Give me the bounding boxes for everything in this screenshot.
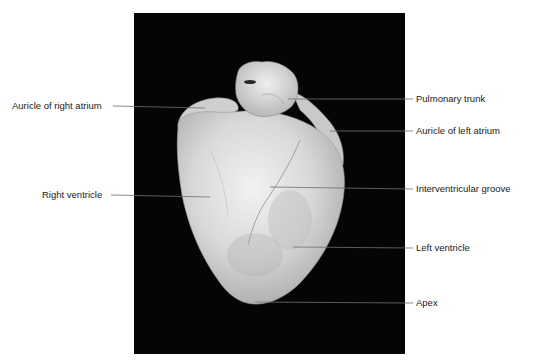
- label-auricle-left-atrium: Auricle of left atrium: [416, 125, 500, 137]
- leader-apex: [255, 302, 413, 303]
- label-auricle-right-atrium: Auricle of right atrium: [12, 100, 102, 112]
- label-right-ventricle: Right ventricle: [42, 189, 102, 201]
- label-apex: Apex: [416, 297, 438, 309]
- label-left-ventricle: Left ventricle: [416, 242, 470, 254]
- heart-illustration: [0, 0, 548, 363]
- label-pulmonary-trunk: Pulmonary trunk: [416, 93, 485, 105]
- label-interventricular-groove: Interventricular groove: [416, 183, 511, 195]
- pulmonary-trunk-shape: [236, 61, 298, 116]
- vessel-opening: [244, 80, 256, 84]
